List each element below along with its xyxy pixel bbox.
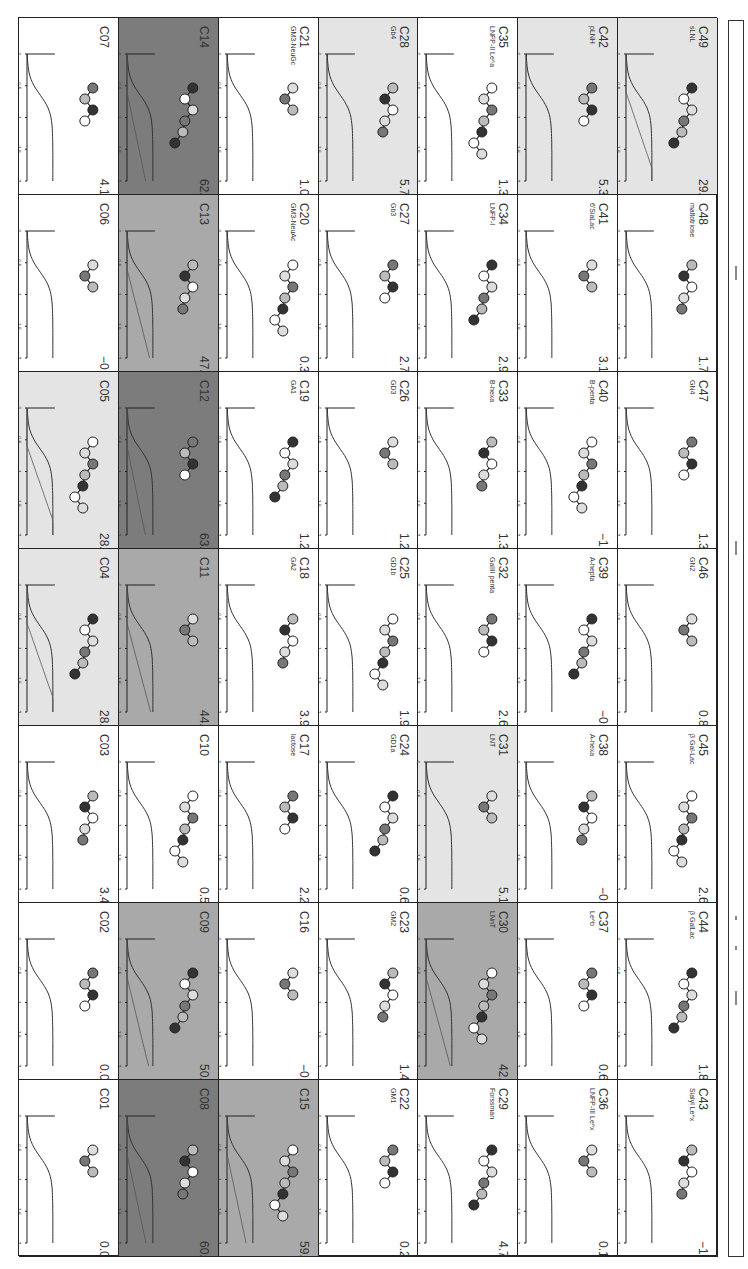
svg-text:1.5: 1.5 — [219, 146, 222, 153]
panel-id: C11 — [197, 557, 211, 578]
panel-content: 00.511.52 C28 Gb4 5.7 — [319, 18, 419, 195]
panel-id: C37 — [596, 911, 610, 933]
svg-text:2: 2 — [19, 180, 22, 183]
svg-text:0.5: 0.5 — [618, 613, 621, 620]
affinity-value: 50.7 — [197, 1064, 211, 1080]
panel-id: C17 — [297, 734, 311, 756]
panel-content: 00.511.52 C24 GD1a 0.6 — [319, 726, 419, 903]
panel-content: 00.511.52 C17 lactose 2.2 — [219, 726, 319, 903]
panel-id: C24 — [396, 734, 410, 756]
elution-plot: 00.511.52 — [119, 217, 157, 372]
svg-text:1.5: 1.5 — [19, 146, 22, 153]
affinity-value: 5.3 — [596, 179, 610, 195]
svg-text:0: 0 — [319, 407, 322, 410]
svg-text:1: 1 — [219, 1178, 222, 1181]
svg-text:1: 1 — [119, 470, 122, 473]
panel-c17: 00.511.52 C17 lactose 2.2 — [219, 726, 319, 903]
panel-id: C19 — [297, 380, 311, 402]
svg-text:0: 0 — [618, 230, 621, 233]
svg-text:1: 1 — [219, 470, 222, 473]
panel-content: 00.511.52 C40 B-penta −1.5 — [518, 372, 618, 549]
svg-text:0: 0 — [418, 407, 421, 410]
svg-text:1.5: 1.5 — [618, 677, 621, 684]
glycan-structure-icon — [55, 611, 113, 677]
glycan-structure-icon — [354, 611, 412, 677]
svg-text:0.5: 0.5 — [518, 1144, 521, 1151]
panel-c38: 00.511.52 C38 A-hexa −0.9 — [518, 726, 618, 903]
glycan-structure-icon — [554, 257, 612, 323]
elution-plot: 00.511.52 — [518, 40, 556, 195]
panel-id: C38 — [596, 734, 610, 756]
svg-text:2: 2 — [219, 1065, 222, 1068]
panel-c33: 00.511.52 C33 B-hexa 1.3 — [418, 372, 518, 549]
svg-text:1: 1 — [418, 293, 421, 296]
svg-text:0: 0 — [618, 407, 621, 410]
svg-text:2: 2 — [219, 711, 222, 714]
panel-c47: 00.511.52 C47 GN4 1.3 — [618, 372, 718, 549]
panel-c48: 00.511.52 C48 maltotriose 1.7 — [618, 195, 718, 372]
panel-id: C43 — [696, 1088, 710, 1110]
elution-plot: 00.511.52 — [418, 1102, 456, 1257]
glycan-name: GD1a — [389, 734, 396, 752]
panel-c34: 00.511.52 C34 LNFP-I 2.9 — [418, 195, 518, 372]
affinity-value: 29.8 — [696, 179, 710, 195]
svg-text:0.5: 0.5 — [19, 1144, 22, 1151]
affinity-value: 42.3 — [496, 1064, 510, 1080]
svg-text:0: 0 — [19, 938, 22, 941]
affinity-value: 28.7 — [97, 710, 111, 726]
panel-c14: 00.511.52 C14 62.0 — [119, 18, 219, 195]
glycan-structure-icon — [354, 80, 412, 146]
elution-plot: 00.511.52 — [518, 571, 556, 726]
svg-text:2: 2 — [518, 1065, 521, 1068]
svg-text:1: 1 — [319, 293, 322, 296]
panel-id: C06 — [97, 203, 111, 225]
glycan-name: Gb3 — [389, 203, 396, 216]
panel-content: 00.511.52 C13 47.2 — [119, 195, 219, 372]
svg-text:1: 1 — [119, 1001, 122, 1004]
glycan-structure-icon — [554, 80, 612, 146]
panel-id: C42 — [596, 26, 610, 48]
glycan-structure-icon — [255, 257, 313, 323]
svg-text:2: 2 — [618, 888, 621, 891]
elution-plot: 00.511.52 — [19, 748, 57, 903]
svg-text:0: 0 — [618, 938, 621, 941]
panel-content: 00.511.52 C10 0.5 — [119, 726, 219, 903]
svg-text:0: 0 — [518, 584, 521, 587]
panel-content: 00.511.52 C37 Le^b 0.6 — [518, 903, 618, 1080]
elution-plot: 00.511.52 — [219, 40, 257, 195]
svg-text:1: 1 — [518, 647, 521, 650]
svg-text:0.5: 0.5 — [518, 436, 521, 443]
panel-c49: 00.511.52 C49 sLNL 29.8 — [618, 18, 718, 195]
svg-text:2: 2 — [219, 357, 222, 360]
svg-text:1: 1 — [219, 1001, 222, 1004]
svg-text:0: 0 — [418, 230, 421, 233]
legend-mark — [735, 541, 737, 555]
glycan-structure-icon — [155, 434, 213, 500]
svg-text:1: 1 — [19, 293, 22, 296]
panel-content: 00.511.52 C19 GA1 1.2 — [219, 372, 319, 549]
svg-text:0.5: 0.5 — [119, 790, 122, 797]
svg-text:0: 0 — [219, 1115, 222, 1118]
svg-text:2: 2 — [119, 711, 122, 714]
panel-c19: 00.511.52 C19 GA1 1.2 — [219, 372, 319, 549]
panel-c37: 00.511.52 C37 Le^b 0.6 — [518, 903, 618, 1080]
panel-content: 00.511.52 C36 LNFP-III Le^x 0.1 — [518, 1080, 618, 1257]
elution-plot: 00.511.52 — [219, 394, 257, 549]
glycan-name: GA1 — [290, 380, 297, 394]
glycan-structure-icon — [55, 80, 113, 146]
glycan-structure-icon — [155, 965, 213, 1031]
glycan-name: sLNL — [689, 26, 696, 42]
glycan-structure-icon — [554, 965, 612, 1031]
panel-c26: 00.511.52 C26 GD3 1.2 — [319, 372, 419, 549]
affinity-value: 1.9 — [396, 710, 410, 726]
affinity-value: 1.8 — [696, 1064, 710, 1080]
affinity-value: 1.3 — [496, 179, 510, 195]
svg-text:0.5: 0.5 — [418, 82, 421, 89]
svg-text:0: 0 — [518, 938, 521, 941]
svg-text:0: 0 — [219, 53, 222, 56]
affinity-value: −1.5 — [596, 533, 610, 549]
panel-content: 00.511.52 C44 β GalLac 1.8 — [618, 903, 718, 1080]
svg-text:0.5: 0.5 — [618, 436, 621, 443]
panel-id: C03 — [97, 734, 111, 756]
affinity-value: 28.5 — [97, 533, 111, 549]
